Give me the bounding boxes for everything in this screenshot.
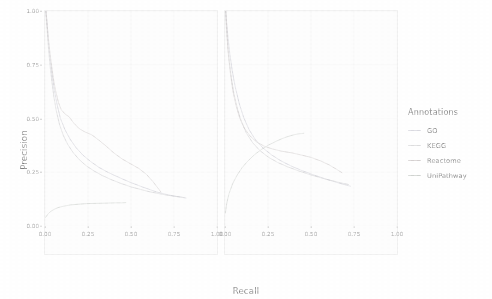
- x-axis-label: Recall: [0, 286, 492, 296]
- x-axis-ticks-left: 0.000.250.500.751.00: [45, 226, 217, 254]
- chart-root: Precision Recall 0.000.250.500.751.00 0.…: [0, 0, 492, 299]
- series-lines-left: [45, 11, 217, 226]
- x-tick-mark: [88, 226, 89, 228]
- legend-line-icon: [408, 160, 421, 161]
- legend-item-unipathway[interactable]: UniPathway: [408, 169, 492, 182]
- legend-line-icon: [408, 175, 421, 176]
- x-tick-label: 0.00: [219, 231, 231, 237]
- y-axis-label: Precision: [19, 130, 29, 170]
- x-tick-mark: [268, 226, 269, 228]
- legend-item-label: GO: [427, 127, 438, 135]
- y-tick-mark: [40, 172, 42, 173]
- y-tick-mark: [40, 118, 42, 119]
- y-tick-mark: [40, 11, 42, 12]
- legend-item-go[interactable]: GO: [408, 124, 492, 137]
- legend-item-reactome[interactable]: Reactome: [408, 154, 492, 167]
- y-tick-label: 0.00: [27, 223, 39, 229]
- panel-left: 0.000.250.500.751.00 0.000.250.500.751.0…: [44, 10, 218, 255]
- x-tick-mark: [354, 226, 355, 228]
- facet-panels: 0.000.250.500.751.00 0.000.250.500.751.0…: [44, 10, 398, 255]
- legend-item-label: KEGG: [427, 142, 446, 150]
- x-axis-ticks-right: 0.000.250.500.751.00: [225, 226, 397, 254]
- y-tick-mark: [40, 226, 42, 227]
- legend-item-label: UniPathway: [427, 172, 467, 180]
- x-tick-label: 0.75: [348, 231, 360, 237]
- series-lines-right: [225, 11, 397, 226]
- x-tick-label: 1.00: [391, 231, 403, 237]
- x-tick-label: 0.75: [168, 231, 180, 237]
- plot-area-left: [45, 11, 217, 226]
- legend-line-icon: [408, 145, 421, 146]
- x-tick-mark: [45, 226, 46, 228]
- x-tick-label: 0.00: [39, 231, 51, 237]
- legend-entries: GOKEGGReactomeUniPathway: [408, 124, 492, 182]
- x-tick-label: 0.25: [262, 231, 274, 237]
- legend-item-label: Reactome: [427, 157, 461, 165]
- x-tick-label: 0.25: [82, 231, 94, 237]
- x-tick-mark: [131, 226, 132, 228]
- x-tick-label: 0.50: [305, 231, 317, 237]
- legend-title: Annotations: [408, 108, 492, 117]
- x-tick-label: 0.50: [125, 231, 137, 237]
- x-tick-mark: [397, 226, 398, 228]
- y-tick-mark: [40, 64, 42, 65]
- panel-right: 0.000.250.500.751.00: [224, 10, 398, 255]
- legend-item-kegg[interactable]: KEGG: [408, 139, 492, 152]
- y-tick-label: 0.75: [27, 62, 39, 68]
- y-tick-label: 1.00: [27, 8, 39, 14]
- plot-area-right: [225, 11, 397, 226]
- y-tick-label: 0.25: [27, 169, 39, 175]
- x-tick-mark: [311, 226, 312, 228]
- legend: Annotations GOKEGGReactomeUniPathway: [408, 108, 492, 184]
- x-tick-mark: [225, 226, 226, 228]
- legend-line-icon: [408, 130, 421, 131]
- x-tick-mark: [217, 226, 218, 228]
- y-tick-label: 0.50: [27, 116, 39, 122]
- x-tick-mark: [174, 226, 175, 228]
